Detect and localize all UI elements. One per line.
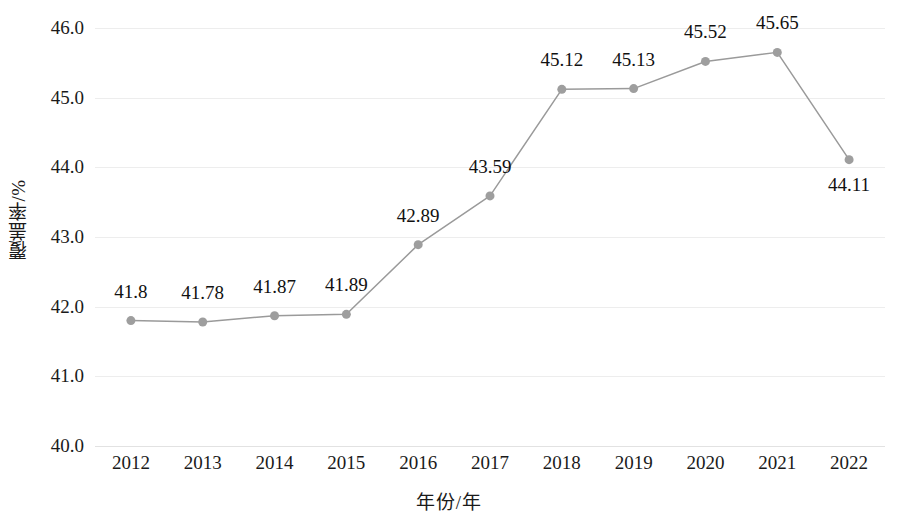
y-axis-tick-label: 41.0: [28, 365, 84, 387]
data-point-label: 44.11: [794, 174, 898, 196]
y-axis-tick-label: 43.0: [28, 226, 84, 248]
line-chart: 覆盖率/% 46.045.044.043.042.041.040.0 41.84…: [0, 0, 898, 528]
y-axis-tick-labels: 46.045.044.043.042.041.040.0: [24, 28, 84, 446]
x-axis-title: 年份/年: [0, 487, 898, 514]
data-point-label: 45.13: [579, 49, 689, 71]
y-axis-tick-label: 44.0: [28, 156, 84, 178]
y-axis-tick-label: 40.0: [28, 435, 84, 457]
x-axis-tick-labels: 2012201320142015201620172018201920202021…: [95, 452, 885, 480]
data-point-label: 43.59: [435, 156, 545, 178]
y-axis-tick-label: 45.0: [28, 87, 84, 109]
data-point-label: 42.89: [363, 205, 473, 227]
data-point-label: 41.89: [291, 274, 401, 296]
data-point-labels: 41.841.7841.8741.8942.8943.5945.1245.134…: [95, 28, 885, 446]
y-axis-tick-label: 46.0: [28, 17, 84, 39]
data-point-label: 45.65: [722, 12, 832, 34]
gridline: [95, 446, 885, 447]
x-axis-tick-label: 2022: [804, 452, 894, 474]
